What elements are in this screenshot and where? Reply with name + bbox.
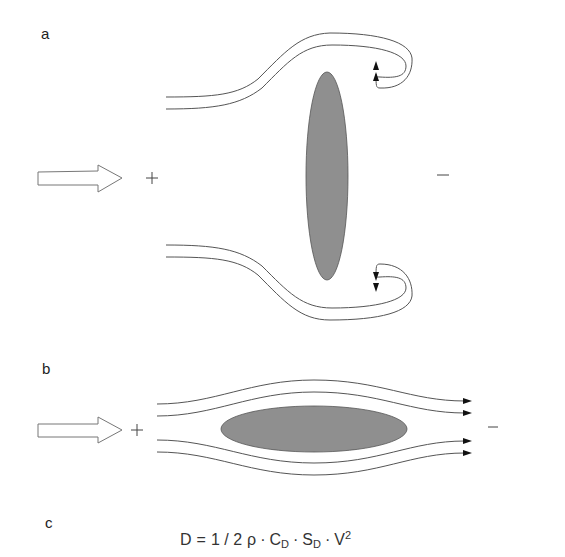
eq-cd: C <box>269 531 281 548</box>
eq-sd: S <box>302 531 313 548</box>
streamline-top-inner <box>166 45 406 109</box>
streamline-bottom-inner <box>166 245 406 308</box>
diagram-canvas: a + − b + − <box>0 0 565 557</box>
drag-equation: D=1 / 2ρ·CD·SD·V2 <box>180 529 351 550</box>
high-pressure-plus-icon <box>131 424 143 436</box>
eq-cd-sub: D <box>281 538 289 550</box>
vortex-arrow-bottom-1-icon <box>373 272 379 281</box>
eq-rho: ρ <box>247 531 256 548</box>
streamline-b-4 <box>157 452 465 475</box>
eq-v-sup: 2 <box>345 529 351 541</box>
flow-arrowhead-3-icon <box>463 438 472 444</box>
eq-equals: = <box>197 531 206 548</box>
eq-dot-3: · <box>325 531 330 548</box>
flow-arrowhead-2-icon <box>463 410 472 416</box>
flow-direction-arrow-icon <box>38 165 122 192</box>
eq-dot-1: · <box>260 531 265 548</box>
eq-sd-sub: D <box>313 538 321 550</box>
streamlined-body <box>221 406 407 452</box>
flow-arrowhead-4-icon <box>463 450 472 456</box>
panel-a: a + − <box>38 25 449 320</box>
panel-b-label: b <box>42 360 50 377</box>
flow-arrowhead-1-icon <box>463 398 472 404</box>
high-pressure-plus-icon <box>146 172 158 184</box>
panel-b: b + − <box>38 360 498 475</box>
vortex-arrow-bottom-2-icon <box>373 283 379 292</box>
eq-dot-2: · <box>293 531 298 548</box>
panel-c-label: c <box>45 514 53 531</box>
eq-factor: 1 / 2 <box>211 531 242 548</box>
vortex-arrow-top-1-icon <box>373 61 379 70</box>
eq-lhs: D <box>180 531 192 548</box>
panel-a-label: a <box>41 25 50 42</box>
panel-c: c D=1 / 2ρ·CD·SD·V2 <box>45 514 351 550</box>
eq-v: V <box>334 531 345 548</box>
flow-direction-arrow-icon <box>38 417 122 443</box>
perpendicular-body <box>306 72 348 280</box>
